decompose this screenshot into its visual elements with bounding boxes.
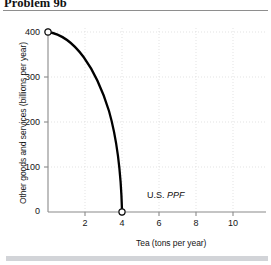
ppf-label-acronym: PPF xyxy=(167,190,185,200)
x-axis-ticks xyxy=(85,212,233,216)
ppf-chart: 400 300 200 100 0 2 4 6 8 10 Other goods… xyxy=(0,14,271,254)
xtick-label-8: 8 xyxy=(186,218,206,228)
xtick-label-10: 10 xyxy=(223,218,243,228)
xtick-label-2: 2 xyxy=(75,218,95,228)
figure-page: Problem 9b xyxy=(0,0,271,265)
y-axis-title: Other goods and services (billions per y… xyxy=(18,33,28,213)
ppf-curve-label: U.S. PPF xyxy=(147,190,185,200)
y-axis-ticks xyxy=(44,32,48,167)
footer-band xyxy=(6,256,268,261)
vertical-gridlines xyxy=(85,28,233,212)
curve-endpoint-x-intercept xyxy=(119,209,125,215)
xtick-label-4: 4 xyxy=(112,218,132,228)
curve-endpoint-y-intercept xyxy=(45,29,51,35)
x-axis-title: Tea (tons per year) xyxy=(136,238,206,248)
xtick-label-6: 6 xyxy=(149,218,169,228)
ppf-label-country: U.S. xyxy=(147,190,165,200)
header-divider xyxy=(3,10,268,11)
